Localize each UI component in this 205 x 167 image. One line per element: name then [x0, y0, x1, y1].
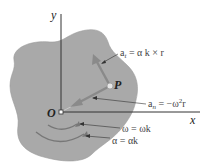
tangential-accel-label: at = α k × r: [120, 47, 164, 60]
angular-accel-label: α = αk: [112, 135, 138, 146]
angular-velocity-label: ω = ωk: [122, 123, 151, 134]
rigid-body-rotation-diagram: y x O P at = α k × r an = −ω2r ω = ωk α …: [0, 0, 205, 167]
origin-marker: [59, 110, 63, 114]
point-p-label: P: [114, 78, 122, 92]
x-axis-label: x: [189, 113, 196, 127]
origin-label: O: [47, 106, 56, 120]
normal-accel-label: an = −ω2r: [148, 97, 186, 111]
point-p-marker: [107, 83, 113, 89]
y-axis-label: y: [50, 8, 57, 22]
